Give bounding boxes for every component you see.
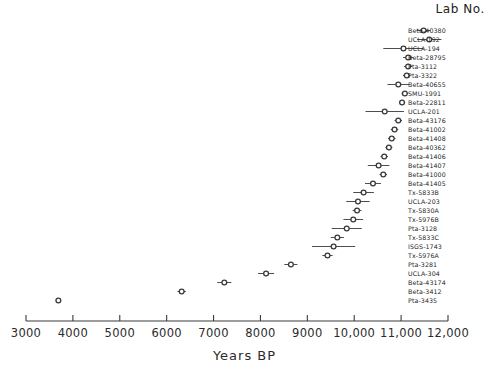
lab-number-label: Pta-3435: [408, 296, 486, 305]
x-axis-tick-label: 4000: [58, 326, 88, 340]
data-point-marker: [56, 298, 61, 303]
lab-number-label: Beta-41405: [408, 179, 486, 188]
x-axis-tick-label: 5000: [105, 326, 135, 340]
lab-number-label: Beta-41407: [408, 161, 486, 170]
x-axis-tick-label: 3000: [11, 326, 41, 340]
lab-number-label: SMU-1991: [408, 89, 486, 98]
lab-number-label: Beta-40655: [408, 80, 486, 89]
x-axis-tick-label: 6000: [151, 326, 181, 340]
lab-number-label: Pta-3128: [408, 224, 486, 233]
x-axis-tick-labels: 300040005000600070008000900010,00011,000…: [0, 326, 489, 344]
lab-number-label-list: Beta-40380UCLA-192UCLA-194Beta-28795Pta-…: [408, 26, 486, 305]
data-point-marker: [179, 289, 184, 294]
data-point-marker: [361, 190, 366, 195]
lab-number-label: Beta-43176: [408, 116, 486, 125]
lab-number-label: Tx-5976B: [408, 215, 486, 224]
lab-number-label: Pta-3322: [408, 71, 486, 80]
data-point-marker: [371, 181, 376, 186]
data-point-marker: [400, 100, 405, 105]
x-axis-tick-label: 8000: [245, 326, 275, 340]
data-point-marker: [401, 46, 406, 51]
data-point-marker: [356, 199, 361, 204]
lab-number-label: Beta-40362: [408, 143, 486, 152]
data-point-marker: [376, 163, 381, 168]
data-point-marker: [351, 217, 356, 222]
data-point-marker: [325, 253, 330, 258]
data-point-marker: [331, 244, 336, 249]
data-point-marker: [355, 208, 360, 213]
x-axis-tick-label: 7000: [198, 326, 228, 340]
data-point-marker: [396, 118, 401, 123]
lab-number-label: UCLA-192: [408, 35, 486, 44]
lab-number-label: Beta-41000: [408, 170, 486, 179]
x-axis-tick-label: 11,000: [380, 326, 422, 340]
data-point-marker: [396, 82, 401, 87]
data-point-marker: [381, 172, 386, 177]
x-axis-tick-label: 10,000: [333, 326, 375, 340]
x-axis-tick-label: 9000: [292, 326, 322, 340]
lab-number-label: Tx-5833C: [408, 233, 486, 242]
lab-number-label: Tx-5830A: [408, 206, 486, 215]
lab-number-label: UCLA-194: [408, 44, 486, 53]
lab-number-label: ISGS-1743: [408, 242, 486, 251]
lab-number-label: Beta-3412: [408, 287, 486, 296]
x-axis-title: Years BP: [0, 348, 489, 363]
data-point-marker: [402, 91, 407, 96]
data-point-marker: [264, 271, 269, 276]
radiocarbon-dating-chart: Lab No. Beta-40380UCLA-192UCLA-194Beta-2…: [0, 0, 489, 380]
data-point-marker: [289, 262, 294, 267]
lab-number-label: Beta-41002: [408, 125, 486, 134]
x-axis-tick-label: 12,000: [427, 326, 469, 340]
lab-number-label: Beta-43174: [408, 278, 486, 287]
lab-number-label: Tx-5976A: [408, 251, 486, 260]
lab-number-label: UCLA-203: [408, 197, 486, 206]
data-point-marker: [344, 226, 349, 231]
data-point-marker: [389, 136, 394, 141]
lab-number-label: UCLA-304: [408, 269, 486, 278]
lab-number-label: Tx-5833B: [408, 188, 486, 197]
data-point-marker: [222, 280, 227, 285]
data-point-marker: [387, 145, 392, 150]
data-point-marker: [382, 154, 387, 159]
data-point-marker: [335, 235, 340, 240]
data-point-marker: [392, 127, 397, 132]
lab-number-label: Pta-3112: [408, 62, 486, 71]
lab-number-label: Beta-41406: [408, 152, 486, 161]
lab-number-label: Beta-28795: [408, 53, 486, 62]
lab-number-label: Beta-22811: [408, 98, 486, 107]
lab-number-label: UCLA-201: [408, 107, 486, 116]
lab-number-label: Beta-40380: [408, 26, 486, 35]
data-point-marker: [382, 109, 387, 114]
lab-number-label: Pta-3281: [408, 260, 486, 269]
lab-number-label: Beta-41408: [408, 134, 486, 143]
